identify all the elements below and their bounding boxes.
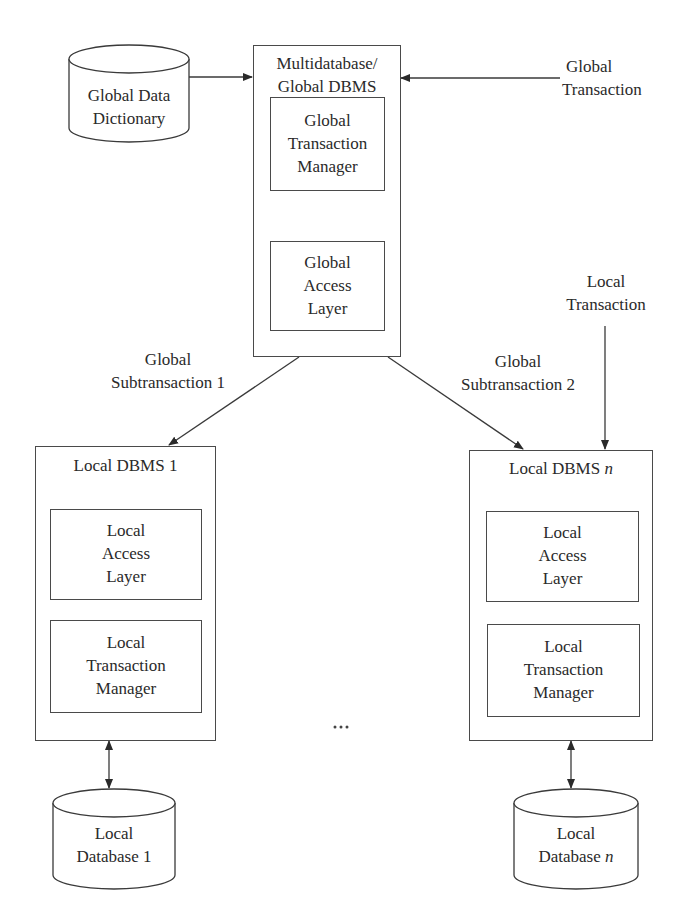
global-transaction-label: Global Transaction	[562, 55, 642, 101]
label-line: Database 1	[53, 845, 175, 868]
global-dbms-title: Multidatabase/ Global DBMS	[254, 52, 400, 98]
label-line: Local	[514, 822, 638, 845]
label-variable: n	[605, 847, 614, 866]
local-dbms-n-title: Local DBMS n	[470, 457, 652, 480]
global-subtransaction-2-label: Global Subtransaction 2	[448, 350, 588, 396]
text-line: Transaction	[488, 658, 639, 681]
ellipsis-dots	[334, 726, 349, 729]
local-dbms-1-title: Local DBMS 1	[36, 454, 215, 477]
text-line: Layer	[487, 567, 638, 590]
title-variable: n	[604, 459, 613, 478]
text-line: Transaction	[271, 132, 384, 155]
label-line: Local	[556, 270, 656, 293]
title-line: Global DBMS	[254, 75, 400, 98]
text-line: Access	[271, 274, 384, 297]
label-line: Subtransaction 1	[100, 371, 236, 394]
text-line: Local	[488, 635, 639, 658]
text-line: Transaction	[51, 654, 201, 677]
title-line: Multidatabase/	[254, 52, 400, 75]
text-line: Local	[51, 631, 201, 654]
local-transaction-manager-n-box: Local Transaction Manager	[487, 624, 640, 717]
label-line: Dictionary	[69, 107, 189, 130]
label-line: Transaction	[562, 78, 642, 101]
local-dbms-1-box: Local DBMS 1 Local Access Layer Local Tr…	[35, 446, 216, 741]
label-line: Database n	[514, 845, 638, 868]
text-line: Global	[271, 109, 384, 132]
text-line: Manager	[271, 155, 384, 178]
global-data-dictionary-label: Global Data Dictionary	[69, 84, 189, 130]
label-line: Transaction	[556, 293, 656, 316]
label-line: Global	[562, 55, 642, 78]
global-subtransaction-1-label: Global Subtransaction 1	[100, 348, 236, 394]
text-line: Global	[271, 251, 384, 274]
local-access-layer-1-box: Local Access Layer	[50, 509, 202, 600]
text-line: Access	[51, 542, 201, 565]
label-text: Database	[538, 847, 605, 866]
text-line: Layer	[51, 565, 201, 588]
label-line: Global	[100, 348, 236, 371]
local-database-1-label: Local Database 1	[53, 822, 175, 868]
text-line: Layer	[271, 297, 384, 320]
global-access-layer-box: Global Access Layer	[270, 241, 385, 331]
local-access-layer-n-box: Local Access Layer	[486, 511, 639, 602]
text-line: Manager	[488, 681, 639, 704]
label-line: Global	[448, 350, 588, 373]
text-line: Local	[487, 521, 638, 544]
global-transaction-manager-box: Global Transaction Manager	[270, 97, 385, 191]
text-line: Access	[487, 544, 638, 567]
local-database-n-label: Local Database n	[514, 822, 638, 868]
local-transaction-manager-1-box: Local Transaction Manager	[50, 620, 202, 713]
label-line: Subtransaction 2	[448, 373, 588, 396]
global-dbms-box: Multidatabase/ Global DBMS Global Transa…	[253, 45, 401, 357]
local-dbms-n-box: Local DBMS n Local Access Layer Local Tr…	[469, 450, 653, 741]
title-text: Local DBMS	[509, 459, 604, 478]
label-line: Local	[53, 822, 175, 845]
multidatabase-architecture-diagram: Global Data Dictionary Multidatabase/ Gl…	[0, 0, 696, 907]
label-line: Global Data	[69, 84, 189, 107]
text-line: Manager	[51, 677, 201, 700]
text-line: Local	[51, 519, 201, 542]
local-transaction-label: Local Transaction	[556, 270, 656, 316]
